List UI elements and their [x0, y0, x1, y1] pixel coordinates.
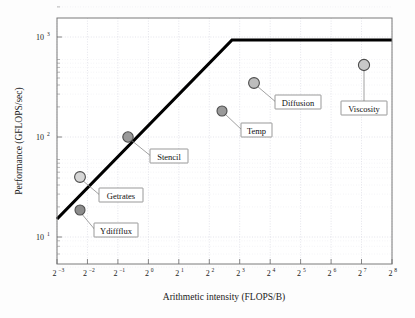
data-point-viscosity[interactable]	[358, 59, 369, 70]
svg-text:10: 10	[36, 133, 44, 142]
svg-text:10: 10	[36, 33, 44, 42]
point-label-getrates[interactable]: Getrates	[99, 188, 143, 202]
svg-text:2: 2	[389, 269, 393, 278]
svg-text:1: 1	[47, 231, 50, 237]
data-point-diffusion[interactable]	[249, 78, 260, 89]
x-tick-label-8: 2 5	[297, 267, 306, 278]
y-tick-label-1e3: 10 3	[36, 31, 50, 42]
x-tick-label-2: 2 −1	[113, 267, 125, 278]
point-label-viscosity[interactable]: Viscosity	[341, 101, 387, 115]
x-tick-label-6: 2 3	[236, 267, 245, 278]
svg-text:2: 2	[328, 269, 332, 278]
svg-text:2: 2	[113, 269, 117, 278]
svg-text:0: 0	[151, 267, 154, 273]
x-tick-label-10: 2 7	[358, 267, 367, 278]
x-tick-label-0: 2 −3	[53, 267, 65, 278]
x-tick-labels: 2 −3 2 −2 2 −1 2 0 2 1 2 2	[53, 267, 398, 278]
x-tick-label-9: 2 6	[328, 267, 337, 278]
y-tick-label-1e1: 10 1	[36, 231, 50, 242]
y-axis-title: Performance (GFLOPS/sec)	[14, 87, 25, 194]
data-point-getrates[interactable]	[75, 172, 86, 183]
x-tick-label-3: 2 0	[145, 267, 154, 278]
svg-text:2: 2	[267, 269, 271, 278]
point-label-temp-text: Temp	[247, 126, 266, 136]
svg-text:−3: −3	[58, 267, 64, 273]
point-label-ydiffflux-text: Ydiffflux	[100, 226, 133, 236]
svg-text:2: 2	[236, 269, 240, 278]
svg-text:10: 10	[36, 233, 44, 242]
x-tick-label-7: 2 4	[267, 267, 276, 278]
x-tick-label-5: 2 2	[206, 267, 215, 278]
point-label-diffusion[interactable]: Diffusion	[275, 95, 321, 109]
svg-text:2: 2	[358, 269, 362, 278]
svg-text:2: 2	[297, 269, 301, 278]
chart-svg: Ydiffflux Getrates Stencil Temp Diffusio…	[0, 0, 415, 318]
svg-text:3: 3	[47, 31, 50, 37]
point-label-diffusion-text: Diffusion	[282, 98, 315, 108]
roofline-chart-figure: Ydiffflux Getrates Stencil Temp Diffusio…	[0, 0, 415, 318]
x-tick-label-11: 2 8	[389, 267, 398, 278]
y-tick-labels: 10 3 10 2 10 1	[36, 31, 50, 242]
svg-text:5: 5	[303, 267, 306, 273]
svg-text:6: 6	[333, 267, 336, 273]
point-label-temp[interactable]: Temp	[241, 123, 272, 137]
point-label-getrates-text: Getrates	[107, 191, 135, 201]
svg-text:2: 2	[175, 269, 179, 278]
data-point-stencil[interactable]	[123, 132, 133, 142]
y-tick-label-1e2: 10 2	[36, 131, 50, 142]
svg-text:−2: −2	[89, 267, 95, 273]
x-tick-label-4: 2 1	[175, 267, 184, 278]
point-label-viscosity-text: Viscosity	[348, 104, 380, 114]
svg-text:2: 2	[145, 269, 149, 278]
svg-text:4: 4	[273, 267, 276, 273]
point-label-stencil-text: Stencil	[157, 152, 181, 162]
data-point-temp[interactable]	[217, 106, 227, 116]
x-axis-title: Arithmetic intensity (FLOPS/B)	[163, 292, 285, 303]
svg-text:−1: −1	[119, 267, 125, 273]
data-point-ydiffflux[interactable]	[75, 205, 85, 215]
svg-text:2: 2	[47, 131, 50, 137]
svg-text:2: 2	[53, 269, 57, 278]
svg-text:2: 2	[212, 267, 215, 273]
point-label-ydiffflux[interactable]: Ydiffflux	[94, 223, 138, 237]
svg-text:7: 7	[364, 267, 367, 273]
point-label-stencil[interactable]: Stencil	[150, 149, 188, 163]
svg-text:2: 2	[206, 269, 210, 278]
svg-text:3: 3	[242, 267, 245, 273]
x-tick-label-1: 2 −2	[83, 267, 95, 278]
svg-text:1: 1	[181, 267, 184, 273]
svg-text:2: 2	[83, 269, 87, 278]
svg-text:8: 8	[394, 267, 397, 273]
